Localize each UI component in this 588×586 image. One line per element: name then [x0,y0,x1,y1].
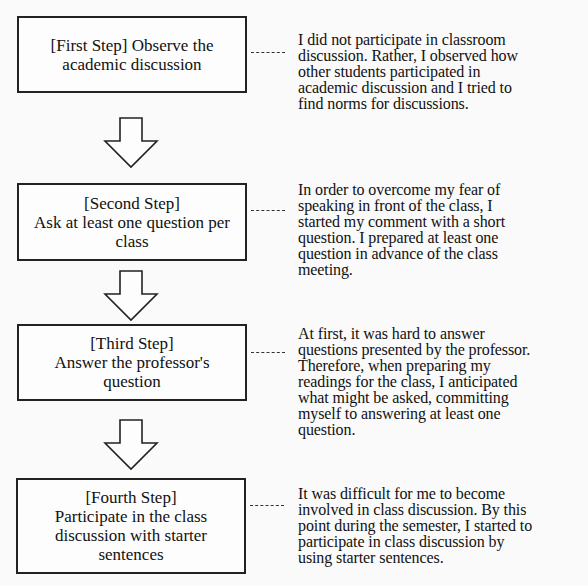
step-2-desc-line: started my comment with a short [298,214,588,230]
step-3-box: [Third Step] Answer the professor's ques… [17,324,247,401]
step-4-desc-line: participate in class discussion by [298,534,588,550]
step-4-desc-line: It was difficult for me to become [298,486,588,502]
step-3-desc-line: At first, it was hard to answer [298,326,588,342]
step-4-box: [Fourth Step] Participate in the class d… [16,478,246,574]
step-1-label-line-2: academic discussion [62,55,201,74]
step-3-desc-line: question. [298,422,588,438]
step-1-desc-line: academic discussion and I tried to [298,80,588,96]
step-2-label-line-3: class [115,232,148,251]
step-1-desc-line: find norms for discussions. [298,96,588,112]
step-1-connector [251,52,285,53]
step-2-description: In order to overcome my fear of speaking… [298,182,588,278]
step-1-desc-line: I did not participate in classroom [298,32,588,48]
step-2-desc-line: In order to overcome my fear of [298,182,588,198]
step-3-desc-line: myself to answering at least one [298,406,588,422]
step-1-desc-line: discussion. Rather, I observed how [298,48,588,64]
step-4-desc-line: involved in class discussion. By this [298,502,588,518]
step-4-label-line-3: discussion with starter [55,526,207,545]
step-3-desc-line: readings for the class, I anticipated [298,374,588,390]
step-2-connector [251,210,285,211]
step-4-label-line-2: Participate in the class [55,507,207,526]
step-3-label-line-1: [Third Step] [90,334,174,353]
step-1-desc-line: other students participated in [298,64,588,80]
step-4-label-line-1: [Fourth Step] [85,488,176,507]
step-3-desc-line: questions presented by the professor. [298,342,588,358]
step-2-desc-line: question in advance of the class [298,246,588,262]
step-4-connector [250,505,284,506]
step-4-desc-line: point during the semester, I started to [298,518,588,534]
step-2-label-line-1: [Second Step] [84,194,180,213]
step-1-box: [First Step] Observe the academic discus… [17,16,247,93]
step-4-label-line-4: sentences [98,545,163,564]
step-1-label-line-1: [First Step] Observe the [51,36,214,55]
step-2-label-line-2: Ask at least one question per [34,213,230,232]
step-3-connector [251,352,285,353]
step-3-description: At first, it was hard to answer question… [298,326,588,438]
step-3-desc-line: what might be asked, committing [298,390,588,406]
hollow-down-arrow-icon [103,270,159,322]
hollow-down-arrow-icon [103,419,159,471]
step-3-label-line-3: question [103,372,161,391]
step-4-description: It was difficult for me to become involv… [298,486,588,566]
step-3-desc-line: Therefore, when preparing my [298,358,588,374]
step-4-desc-line: using starter sentences. [298,550,588,566]
step-2-box: [Second Step] Ask at least one question … [17,183,247,261]
step-2-desc-line: meeting. [298,262,588,278]
step-1-description: I did not participate in classroom discu… [298,32,588,112]
step-2-desc-line: speaking in front of the class, I [298,198,588,214]
step-3-label-line-2: Answer the professor's [54,353,209,372]
step-2-desc-line: question. I prepared at least one [298,230,588,246]
hollow-down-arrow-icon [103,117,159,169]
